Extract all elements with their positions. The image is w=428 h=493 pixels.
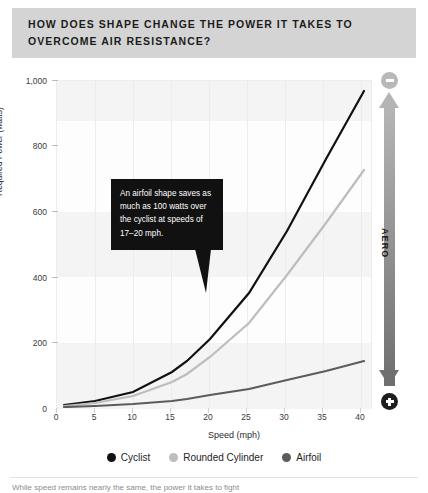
annotation-callout: An airfoil shape saves as much as 100 wa… <box>111 179 223 250</box>
y-axis-title: Required Power (watts) <box>0 107 4 196</box>
legend-label: Airfoil <box>296 452 321 463</box>
legend-item-cyclist[interactable]: Cyclist <box>107 452 150 463</box>
x-axis-tick-label: 40 <box>345 412 375 422</box>
aero-label: AERO <box>380 228 390 258</box>
x-axis-tick-label: 30 <box>269 412 299 422</box>
plus-circle-icon <box>381 393 398 410</box>
footer-caption: While speed remains nearly the same, the… <box>12 483 416 493</box>
legend-item-airfoil[interactable]: Airfoil <box>282 452 321 463</box>
x-axis-tick-label: 25 <box>231 412 261 422</box>
legend-dot-icon <box>169 453 178 462</box>
x-axis-title: Speed (mph) <box>0 430 428 440</box>
arrow-down-icon <box>379 370 399 386</box>
legend-item-rounded-cylinder[interactable]: Rounded Cylinder <box>169 452 263 463</box>
x-axis-tick-label: 35 <box>307 412 337 422</box>
y-axis-tick-label: 800 <box>5 141 47 151</box>
minus-circle-icon <box>381 72 398 89</box>
arrow-up-icon <box>379 92 399 108</box>
y-axis-tick-label: 200 <box>5 338 47 348</box>
page-title: HOW DOES SHAPE CHANGE THE POWER IT TAKES… <box>28 16 378 50</box>
y-axis-tick-label: 400 <box>5 273 47 283</box>
legend-dot-icon <box>107 453 116 462</box>
chart-legend: Cyclist Rounded Cylinder Airfoil <box>0 452 428 463</box>
x-axis-tick-label: 0 <box>41 412 71 422</box>
x-axis-tick-label: 15 <box>155 412 185 422</box>
annotation-callout-text: An airfoil shape saves as much as 100 wa… <box>120 187 218 240</box>
x-axis-title-text: Speed (mph) <box>168 430 260 440</box>
legend-dot-icon <box>282 453 291 462</box>
y-axis-tick-label: 600 <box>5 207 47 217</box>
x-axis-tick-label: 20 <box>193 412 223 422</box>
aero-scale: AERO <box>376 78 416 412</box>
legend-label: Rounded Cylinder <box>183 452 263 463</box>
y-axis-tick-label: 1,000 <box>5 76 47 86</box>
footer-divider <box>10 477 418 478</box>
legend-label: Cyclist <box>121 452 150 463</box>
annotation-callout-tail <box>195 249 217 293</box>
x-axis-tick-label: 5 <box>79 412 109 422</box>
x-axis-tick-label: 10 <box>117 412 147 422</box>
